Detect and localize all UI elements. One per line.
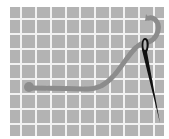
grid-background [10, 7, 164, 136]
needle-thread-grid-illustration [0, 0, 169, 139]
